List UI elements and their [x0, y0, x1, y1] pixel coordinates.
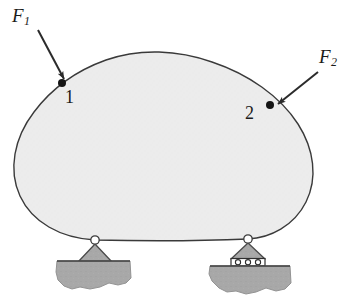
left-ground-block: [56, 261, 131, 289]
force-label-f2-subscript: 2: [331, 55, 337, 69]
right-ground-block: [209, 266, 291, 294]
left-support-triangle: [78, 244, 112, 262]
force-label-f1-symbol: F: [12, 5, 24, 26]
right-support-triangle: [231, 243, 265, 259]
roller-icon-3: [255, 260, 260, 265]
diagram-canvas: [0, 0, 361, 303]
force-arrow-f2: [278, 72, 318, 104]
application-point-2: [266, 101, 274, 109]
force-arrow-f1: [38, 30, 64, 79]
point-label-1: 1: [65, 88, 74, 106]
left-support-pin: [56, 236, 131, 289]
right-pin-circle: [244, 235, 252, 243]
force-label-f2: F2: [319, 47, 337, 68]
force-label-f1: F1: [12, 6, 30, 27]
right-support-roller: [209, 235, 291, 294]
force-label-f2-symbol: F: [319, 46, 331, 67]
point-label-2: 2: [245, 104, 254, 122]
roller-icon-1: [235, 260, 240, 265]
left-pin-circle: [91, 236, 99, 244]
application-point-1: [58, 79, 66, 87]
rigid-body-blob: [14, 52, 313, 241]
roller-icon-2: [245, 260, 250, 265]
free-body-diagram: F1 F2 1 2: [0, 0, 361, 303]
force-label-f1-subscript: 1: [24, 14, 30, 28]
